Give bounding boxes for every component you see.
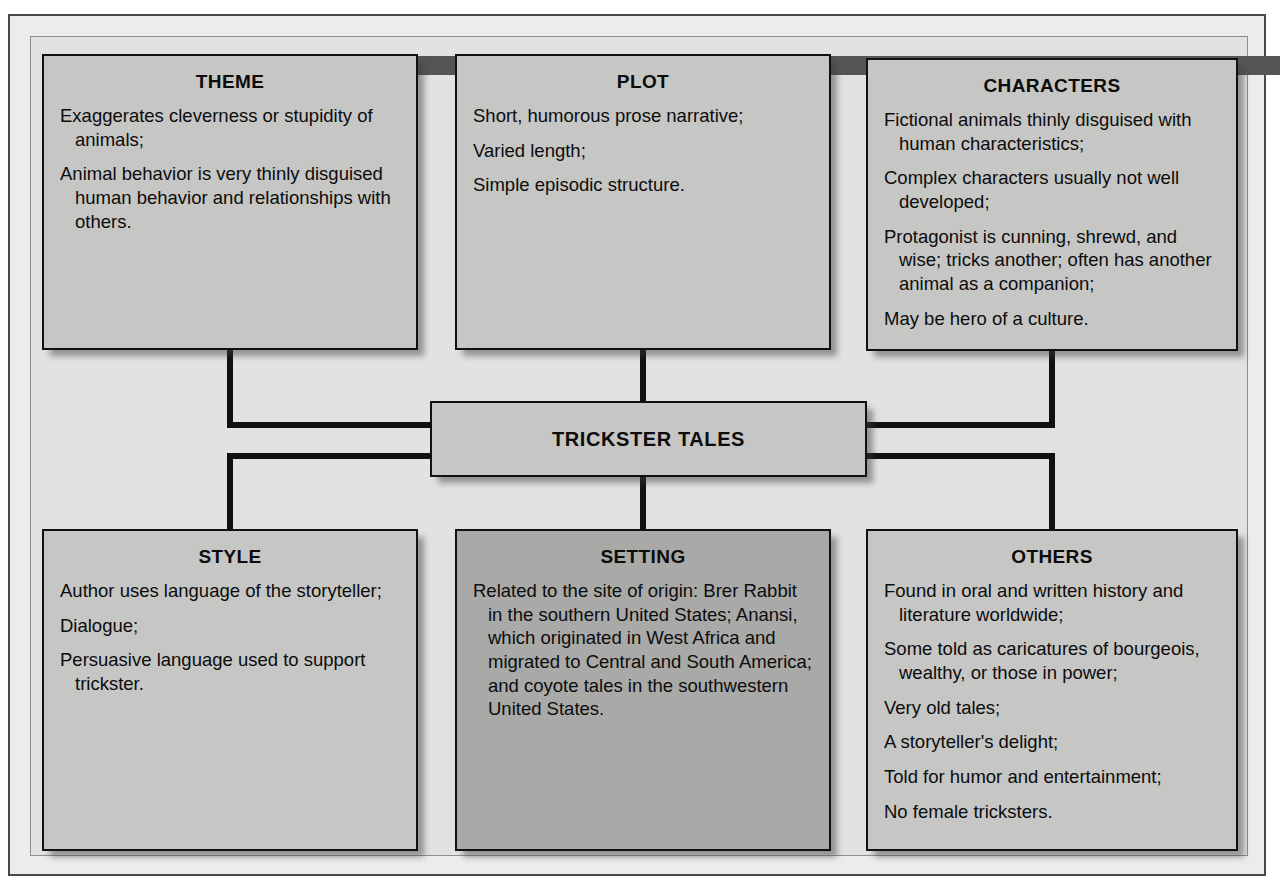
node-center-trickster-tales: TRICKSTER TALES	[430, 401, 867, 477]
node-characters-line-4: May be hero of a culture.	[884, 307, 1220, 331]
node-plot-line-3: Simple episodic structure.	[473, 173, 813, 197]
node-plot-line-2: Varied length;	[473, 139, 813, 163]
node-characters-lines: Fictional animals thinly disguised with …	[884, 108, 1220, 330]
node-plot-line-1: Short, humorous prose narrative;	[473, 104, 813, 128]
node-style-line-1: Author uses language of the storyteller;	[60, 579, 400, 603]
connector-style	[230, 456, 430, 529]
connector-theme	[230, 350, 430, 425]
node-theme-line-1: Exaggerates cleverness or stupidity of a…	[60, 104, 400, 151]
node-setting-lines: Related to the site of origin: Brer Rabb…	[473, 579, 813, 721]
node-others-title: OTHERS	[884, 547, 1220, 568]
node-others-line-2: Some told as caricatures of bourgeois, w…	[884, 637, 1220, 684]
node-others-line-6: No female tricksters.	[884, 800, 1220, 824]
node-others-line-1: Found in oral and written history and li…	[884, 579, 1220, 626]
node-characters-line-3: Protagonist is cunning, shrewd, and wise…	[884, 225, 1220, 296]
node-setting: SETTING Related to the site of origin: B…	[455, 529, 831, 851]
node-characters-line-2: Complex characters usually not well deve…	[884, 166, 1220, 213]
node-theme-line-2: Animal behavior is very thinly disguised…	[60, 162, 400, 233]
node-setting-line-1: Related to the site of origin: Brer Rabb…	[473, 579, 813, 721]
node-characters-title: CHARACTERS	[884, 76, 1220, 97]
node-plot-lines: Short, humorous prose narrative; Varied …	[473, 104, 813, 197]
node-style-lines: Author uses language of the storyteller;…	[60, 579, 400, 696]
node-theme: THEME Exaggerates cleverness or stupidit…	[42, 54, 418, 350]
node-style: STYLE Author uses language of the storyt…	[42, 529, 418, 851]
node-center-label: TRICKSTER TALES	[552, 428, 745, 451]
node-characters-line-1: Fictional animals thinly disguised with …	[884, 108, 1220, 155]
node-style-title: STYLE	[60, 547, 400, 568]
connector-others	[867, 456, 1052, 529]
node-plot: PLOT Short, humorous prose narrative; Va…	[455, 54, 831, 350]
node-theme-title: THEME	[60, 72, 400, 93]
node-style-line-3: Persuasive language used to support tric…	[60, 648, 400, 695]
node-others-line-3: Very old tales;	[884, 696, 1220, 720]
concept-map-page: THEME Exaggerates cleverness or stupidit…	[0, 0, 1283, 891]
node-theme-lines: Exaggerates cleverness or stupidity of a…	[60, 104, 400, 233]
node-setting-title: SETTING	[473, 547, 813, 568]
node-others: OTHERS Found in oral and written history…	[866, 529, 1238, 851]
node-others-line-5: Told for humor and entertainment;	[884, 765, 1220, 789]
node-characters: CHARACTERS Fictional animals thinly disg…	[866, 58, 1238, 351]
connector-characters	[867, 351, 1052, 425]
node-style-line-2: Dialogue;	[60, 614, 400, 638]
node-others-lines: Found in oral and written history and li…	[884, 579, 1220, 823]
node-others-line-4: A storyteller's delight;	[884, 730, 1220, 754]
node-plot-title: PLOT	[473, 72, 813, 93]
